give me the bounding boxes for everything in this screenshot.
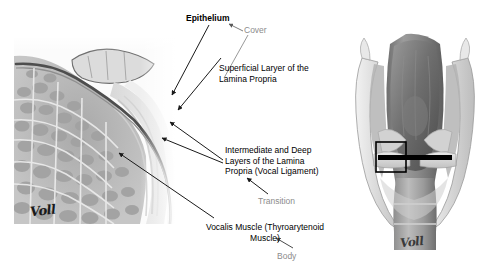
leader-superficial-layer (178, 58, 221, 110)
label-body: Body (277, 251, 296, 262)
micrograph-image (14, 38, 176, 224)
vocal-fold-micrograph: Voll (14, 38, 176, 224)
label-transition: Transition (258, 196, 295, 207)
label-epithelium: Epithelium (186, 13, 229, 24)
glottis-marker-bar (378, 155, 452, 160)
label-intermediate-deep-layers: Intermediate and Deep Layers of the Lami… (225, 145, 331, 177)
leader-transition (247, 178, 268, 194)
leader-cover-top (229, 24, 243, 31)
label-cover: Cover (244, 25, 267, 36)
leader-intermediate-deep-a (170, 122, 223, 160)
anatomy-figure: Voll (0, 0, 489, 279)
leader-epithelium (172, 25, 209, 95)
label-vocalis-muscle: Vocalis Muscle (Thyroarytenoid Muscle) (198, 222, 332, 243)
label-superficial-layer: Superficial Laryer of the Lamina Propria (219, 63, 327, 84)
larynx-image (344, 28, 486, 250)
larynx-illustration: Voll (344, 28, 486, 250)
